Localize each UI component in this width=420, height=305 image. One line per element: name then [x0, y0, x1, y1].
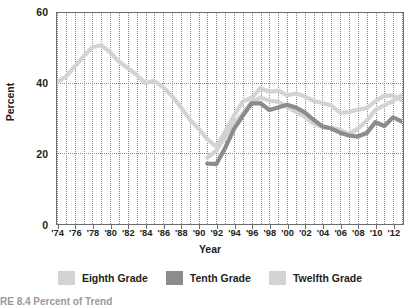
- plot-area: [56, 12, 404, 225]
- legend-item-eighth-grade[interactable]: Eighth Grade: [58, 271, 148, 285]
- chart-legend: Eighth GradeTenth GradeTwelfth Grade: [0, 268, 420, 288]
- legend-swatch-icon: [58, 271, 75, 285]
- chart-figure: 60 40 20 0 Percent '74'76'78'80'82'84'86…: [0, 0, 420, 305]
- legend-swatch-icon: [166, 271, 183, 285]
- legend-item-twelfth-grade[interactable]: Twelfth Grade: [269, 271, 362, 285]
- series-lines: [57, 13, 402, 223]
- vertical-gridline: [402, 13, 403, 224]
- plot-inner: [57, 13, 403, 224]
- legend-label: Tenth Grade: [190, 272, 251, 284]
- y-tick-label-60: 60: [0, 6, 48, 18]
- y-axis-title: Percent: [4, 66, 16, 138]
- legend-label: Twelfth Grade: [293, 272, 362, 284]
- x-axis-title: Year: [0, 243, 420, 255]
- y-tick-label-20: 20: [0, 148, 48, 160]
- legend-label: Eighth Grade: [82, 272, 148, 284]
- legend-item-tenth-grade[interactable]: Tenth Grade: [166, 271, 251, 285]
- y-tick-label-0: 0: [0, 219, 48, 231]
- figure-caption: RE 8.4 Percent of Trend: [0, 296, 420, 305]
- x-tick-label: '12: [381, 228, 407, 238]
- legend-swatch-icon: [269, 271, 286, 285]
